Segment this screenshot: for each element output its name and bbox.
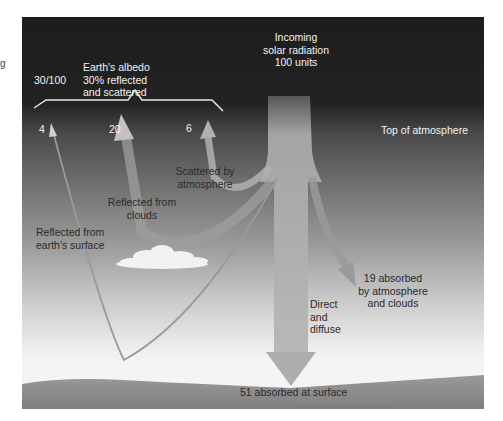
- cloud-icon: [116, 245, 208, 269]
- scattered-label: Scattered by atmosphere: [170, 165, 240, 190]
- scattered-arrowhead: [200, 120, 216, 139]
- absorbed-atmosphere-arrowhead: [338, 262, 356, 287]
- reflected-clouds-label: Reflected from clouds: [102, 196, 182, 221]
- absorbed-surface-label: 51 absorbed at surface: [240, 386, 347, 399]
- absorbed-atmosphere-arrow: [312, 177, 347, 267]
- surface-reflection-arrowhead: [49, 123, 57, 137]
- cropped-text-fragment: g: [0, 58, 6, 69]
- albedo-fraction-label: 30/100: [34, 74, 66, 87]
- reflected-surface-label: Reflected from earth's surface: [36, 226, 105, 251]
- top-of-atmosphere-label: Top of atmosphere: [381, 124, 468, 137]
- radiation-budget-diagram: 30/100 Earth's albedo 30% reflected and …: [22, 17, 484, 409]
- albedo-label: Earth's albedo 30% reflected and scatter…: [83, 61, 150, 99]
- direct-diffuse-label: Direct and diffuse: [310, 298, 341, 336]
- surface-reflected-value: 4: [39, 123, 45, 136]
- absorbed-atmosphere-label: 19 absorbed by atmosphere and clouds: [356, 272, 430, 310]
- incoming-radiation-label: Incoming solar radiation 100 units: [256, 31, 336, 69]
- atmosphere-scattered-value: 6: [186, 122, 192, 135]
- direct-diffuse-arrowhead: [266, 352, 316, 386]
- clouds-reflected-value: 20: [109, 123, 121, 136]
